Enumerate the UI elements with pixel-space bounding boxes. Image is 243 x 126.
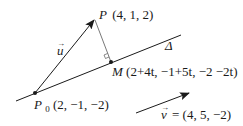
point-p0-subscript: 0 [45,104,50,114]
point-p0-name: P [33,97,42,112]
perpendicular-segment [95,20,111,62]
point-m-coords: (2+4t, −1+5t, −2 −2t) [126,64,237,79]
label-line-delta: Δ [164,38,173,53]
point-p-name: P [98,7,107,22]
point-p0 [33,91,37,95]
vector-u-arrow-glyph: → [57,39,65,48]
label-vector-v: v = (4, 5, −2) [161,107,231,122]
label-point-m: M (2+4t, −1+5t, −2 −2t) [111,64,238,79]
vector-v-value: = (4, 5, −2) [172,107,231,122]
diagram-canvas: P (4, 1, 2) u → Δ M (2+4t, −1+5t, −2 −2t… [0,0,243,126]
point-p0-coords: (2, −1, −2) [53,97,109,112]
label-point-p: P (4, 1, 2) [98,7,153,22]
label-point-p0: P 0 (2, −1, −2) [33,97,109,115]
point-m-name: M [111,64,124,79]
vector-v-arrow-glyph: → [161,103,169,112]
point-p-coords: (4, 1, 2) [112,7,153,22]
